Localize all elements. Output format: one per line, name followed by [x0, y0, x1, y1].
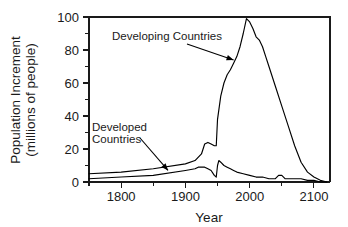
- population-increment-chart: 020406080100 1800190020002100 Developing…: [0, 0, 348, 227]
- annotation-label-developed-countries: Developed: [92, 121, 147, 133]
- annotation-label-developing-countries: Developing Countries: [112, 30, 222, 42]
- annotation-arrow-developing-countries: [187, 44, 234, 60]
- x-tick-label: 2000: [235, 189, 264, 204]
- y-tick-label: 20: [65, 142, 79, 157]
- y-axis-tick-labels: 020406080100: [57, 10, 79, 190]
- annotation-arrowhead-developing-countries: [226, 55, 234, 60]
- x-tick-label: 1900: [171, 189, 200, 204]
- chart-canvas: 020406080100 1800190020002100 Developing…: [0, 0, 348, 227]
- y-tick-label: 60: [65, 76, 79, 91]
- y-tick-label: 80: [65, 43, 79, 58]
- y-axis-ticks: [83, 17, 89, 182]
- y-tick-label: 100: [57, 10, 79, 25]
- x-axis-title: Year: [195, 210, 223, 225]
- series-line-developing-countries: [89, 19, 327, 182]
- chart-annotations: Developing CountriesDevelopedCountries: [92, 30, 234, 170]
- y-tick-label: 40: [65, 109, 79, 124]
- x-tick-label: 1800: [107, 189, 136, 204]
- x-tick-label: 2100: [299, 189, 328, 204]
- y-axis-title-line1: Population Increment: [8, 36, 23, 164]
- y-tick-label: 0: [72, 175, 79, 190]
- annotation-label-developed-countries: Countries: [92, 133, 141, 145]
- x-axis-tick-labels: 1800190020002100: [107, 189, 329, 204]
- y-axis-title-line2: (millions of people): [23, 43, 38, 156]
- data-series-group: [89, 19, 327, 182]
- x-axis-ticks: [89, 182, 314, 188]
